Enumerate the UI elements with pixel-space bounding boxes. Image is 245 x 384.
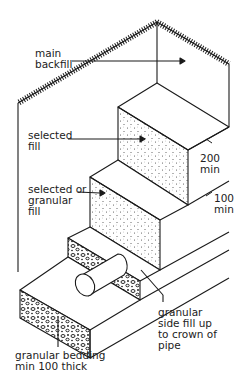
label-selected-or-granular-fill: selected or granular fill xyxy=(28,184,86,217)
dimension-100-min: 100 min xyxy=(214,193,234,215)
dimension-200-min: 200 min xyxy=(200,153,220,175)
label-granular-side-fill: granular side fill up to crown of pipe xyxy=(158,307,217,351)
label-granular-bedding: granular bedding min 100 thick xyxy=(15,350,105,372)
label-selected-fill: selected fill xyxy=(28,130,72,152)
label-main-backfill: main backfill xyxy=(35,48,72,70)
